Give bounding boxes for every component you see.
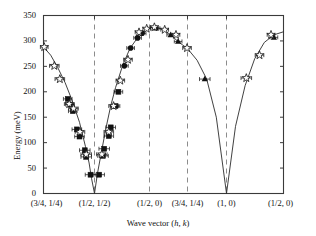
- x-tick-label-5: (1/2, 0): [251, 198, 311, 208]
- open-star-marker: [183, 44, 191, 52]
- error-bars: [40, 25, 277, 176]
- x-tick-label-1: (1/2, 1/2): [65, 198, 125, 208]
- y-tick-label-5: 250: [10, 61, 36, 71]
- x-axis-title: Wave vector (h, k): [0, 218, 316, 228]
- filled-square-marker: [88, 172, 93, 177]
- filled-square-marker: [97, 172, 102, 177]
- filled-circle-marker: [122, 63, 128, 69]
- y-tick-label-4: 200: [10, 86, 36, 96]
- x-axis-title-prefix: Wave vector (: [127, 218, 174, 228]
- y-tick-label-1: 50: [10, 163, 36, 173]
- filled-circle-marker: [135, 35, 141, 41]
- filled-triangle-marker: [202, 76, 208, 82]
- plot-frame: [44, 16, 284, 194]
- y-axis-title: Energy (meV): [12, 111, 22, 160]
- x-axis-title-suffix: ): [186, 218, 189, 228]
- open-star-marker: [50, 61, 58, 69]
- y-tick-label-0: 0: [10, 188, 36, 198]
- filled-circle-marker: [128, 45, 134, 51]
- y-tick-label-7: 350: [10, 10, 36, 20]
- dispersion-curve: [44, 27, 284, 193]
- figure-container: 050100150200250300350 (3/4, 1/4)(1/2, 1/…: [0, 0, 316, 236]
- filled-square-marker: [116, 89, 121, 94]
- x-tick-label-4: (1, 0): [197, 198, 257, 208]
- open-star-marker: [255, 51, 263, 59]
- filled-triangle-marker: [175, 38, 181, 44]
- filled-square-marker: [102, 146, 107, 151]
- open-star-marker: [124, 55, 132, 63]
- open-star-marker: [56, 75, 64, 83]
- axis-ticks: [44, 16, 284, 194]
- y-tick-label-6: 300: [10, 35, 36, 45]
- open-star-marker: [40, 43, 48, 51]
- axes-frame: [44, 16, 284, 194]
- y-axis-title-text: Energy (meV): [12, 111, 22, 160]
- curve-path: [44, 27, 284, 193]
